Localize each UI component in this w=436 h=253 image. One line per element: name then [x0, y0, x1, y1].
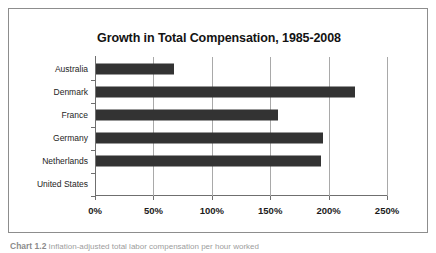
bar-australia — [96, 63, 174, 74]
x-tick-mark — [95, 196, 96, 200]
y-tick-mark — [91, 150, 95, 151]
x-tick-label: 50% — [144, 205, 163, 216]
gridline-50% — [153, 57, 154, 196]
x-tick-label: 150% — [258, 205, 282, 216]
gridline-200% — [329, 57, 330, 196]
category-label-united-states: United States — [37, 179, 88, 189]
chart-title: Growth in Total Compensation, 1985-2008 — [9, 31, 429, 45]
bar-france — [96, 109, 278, 120]
category-label-germany: Germany — [53, 133, 88, 143]
x-tick-mark — [270, 196, 271, 200]
y-axis-line — [95, 56, 96, 197]
x-tick-mark — [329, 196, 330, 200]
plot-area: 0%50%100%150%200%250% AustraliaDenmarkFr… — [95, 57, 387, 196]
x-tick-mark — [387, 196, 388, 200]
x-tick-label: 250% — [375, 205, 399, 216]
figure-frame: Growth in Total Compensation, 1985-2008 … — [8, 8, 428, 233]
x-tick-label: 0% — [88, 205, 102, 216]
figure-caption-number: Chart 1.2 — [10, 241, 46, 251]
screenshot-page: Growth in Total Compensation, 1985-2008 … — [0, 0, 436, 253]
y-tick-mark — [91, 127, 95, 128]
category-label-netherlands: Netherlands — [42, 156, 88, 166]
x-tick-mark — [212, 196, 213, 200]
bar-netherlands — [96, 156, 321, 167]
gridline-100% — [212, 57, 213, 196]
y-tick-mark — [91, 196, 95, 197]
bar-germany — [96, 133, 323, 144]
figure-caption-text: Inflation-adjusted total labor compensat… — [49, 242, 259, 251]
x-tick-mark — [153, 196, 154, 200]
x-tick-label: 100% — [200, 205, 224, 216]
gridline-250% — [387, 57, 388, 196]
x-tick-label: 200% — [316, 205, 340, 216]
figure-caption: Chart 1.2 Inflation-adjusted total labor… — [10, 241, 430, 251]
category-label-denmark: Denmark — [54, 87, 88, 97]
gridline-150% — [270, 57, 271, 196]
y-tick-mark — [91, 103, 95, 104]
category-label-australia: Australia — [55, 64, 88, 74]
bar-denmark — [96, 86, 355, 97]
category-label-france: France — [62, 110, 88, 120]
x-axis-line — [95, 195, 387, 196]
y-tick-mark — [91, 80, 95, 81]
y-tick-mark — [91, 173, 95, 174]
